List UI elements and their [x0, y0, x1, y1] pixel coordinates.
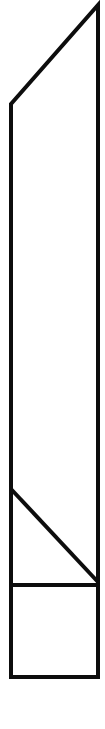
diagram-canvas: [0, 0, 105, 729]
lower-diagonal: [11, 489, 98, 582]
blade-outline-diagram: [0, 0, 105, 729]
outline-polygon: [11, 5, 98, 677]
